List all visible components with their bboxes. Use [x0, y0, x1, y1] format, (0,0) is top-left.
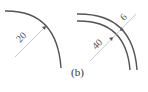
- left-diagram: 20: [5, 11, 61, 68]
- diagram-canvas: 20 40 6: [0, 0, 148, 92]
- arrowhead-icon: [109, 37, 113, 41]
- radius-label: 20: [14, 30, 29, 45]
- figure-caption: (b): [71, 66, 84, 78]
- radius-label: 40: [90, 37, 105, 52]
- width-label: 6: [118, 11, 129, 22]
- right-diagram: 40 6: [77, 11, 137, 70]
